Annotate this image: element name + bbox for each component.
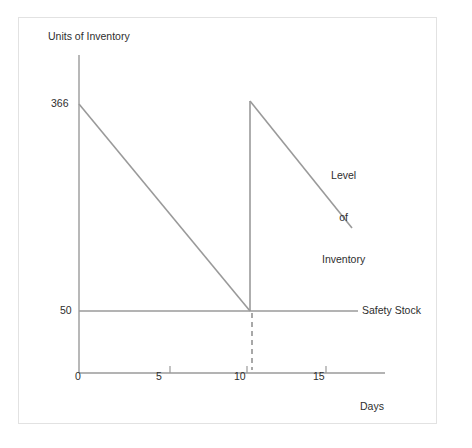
x-tick-label-10: 10: [234, 370, 246, 383]
x-tick-label-5: 5: [156, 370, 162, 383]
y-tick-label-366: 366: [51, 97, 69, 110]
level-annotation-line-3: Inventory: [322, 252, 365, 266]
inventory-depletion-segment-1: [79, 104, 250, 311]
y-axis-title: Units of Inventory: [48, 30, 130, 43]
level-annotation-line-2: of: [322, 210, 365, 224]
x-tick-label-15: 15: [313, 370, 325, 383]
y-tick-label-50: 50: [60, 304, 72, 317]
safety-stock-annotation: Safety Stock: [362, 304, 421, 317]
x-axis-title: Days: [360, 400, 384, 413]
level-annotation-line-1: Level: [322, 168, 365, 182]
inventory-chart-figure: Units of Inventory Days 366 50 0 5 10 15…: [0, 0, 472, 448]
level-of-inventory-annotation: Level of Inventory: [322, 140, 365, 294]
x-tick-label-0: 0: [75, 370, 81, 383]
